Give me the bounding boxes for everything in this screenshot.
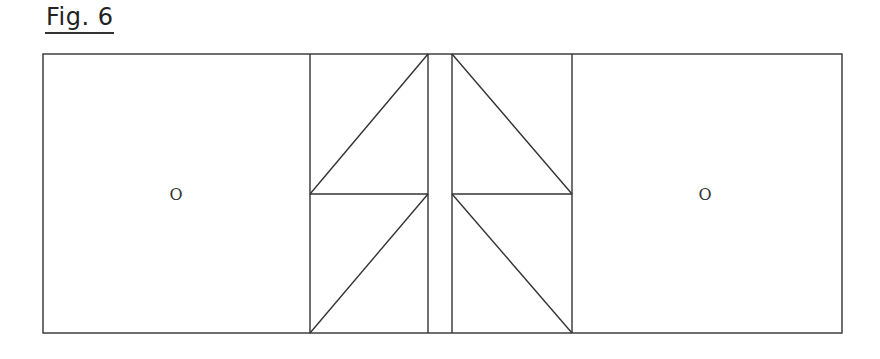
diagonal-left-upper [310,54,428,194]
right-panel-label: O [698,185,711,204]
diagonal-left-lower [310,194,428,333]
diagonal-right-lower [452,194,572,333]
outer-frame [43,54,842,333]
diagonal-right-upper [452,54,572,194]
fold-diagram: O O [0,0,880,359]
left-panel-label: O [169,185,182,204]
